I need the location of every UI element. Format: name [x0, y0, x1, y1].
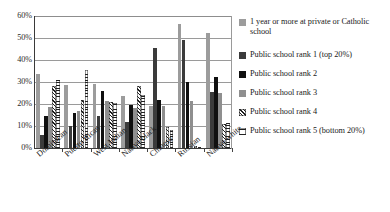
- legend-item[interactable]: Public school rank 4: [239, 107, 390, 117]
- bar: [93, 84, 97, 148]
- chart-legend: 1 year or more at private or Catholic sc…: [239, 14, 390, 149]
- legend-item[interactable]: Public school rank 2: [239, 69, 390, 79]
- y-tick-label: 20%: [2, 100, 32, 108]
- legend-swatch-icon: [239, 19, 246, 26]
- x-tick-mark: [232, 148, 233, 152]
- y-tick-label: 30%: [2, 78, 32, 86]
- x-tick-mark: [147, 148, 148, 152]
- bar-chart: 0%10%20%30%40%50%60% DominicanPuerto Ric…: [0, 0, 390, 212]
- bar: [214, 77, 218, 149]
- bar: [36, 74, 40, 148]
- x-axis-labels: DominicanPuerto RicanWest IndianNative b…: [34, 152, 234, 210]
- bar: [186, 82, 190, 148]
- legend-swatch-icon: [239, 71, 246, 78]
- bar: [64, 85, 68, 148]
- legend-swatch-icon: [239, 128, 246, 135]
- bar: [182, 40, 186, 148]
- legend-label: 1 year or more at private or Catholic sc…: [250, 17, 390, 38]
- x-tick-mark: [91, 148, 92, 152]
- y-axis-line: [34, 16, 35, 149]
- y-tick-label: 10%: [2, 122, 32, 130]
- y-tick-label: 50%: [2, 34, 32, 42]
- legend-label: Public school rank 1 (top 20%): [250, 50, 352, 60]
- legend-label: Public school rank 5 (bottom 20%): [250, 126, 365, 136]
- legend-swatch-icon: [239, 52, 246, 59]
- x-tick-mark: [175, 148, 176, 152]
- y-tick-label: 40%: [2, 56, 32, 64]
- legend-label: Public school rank 4: [250, 107, 317, 117]
- x-tick-mark: [119, 148, 120, 152]
- legend-swatch-icon: [239, 90, 246, 97]
- bar: [206, 33, 210, 149]
- legend-item[interactable]: Public school rank 3: [239, 88, 390, 98]
- bar-group: [34, 16, 62, 148]
- x-tick-mark: [62, 148, 63, 152]
- bar: [178, 24, 182, 148]
- bar-group: [62, 16, 90, 148]
- y-tick-label: 60%: [2, 12, 32, 20]
- y-tick-label: 0%: [2, 144, 32, 152]
- x-tick-mark: [204, 148, 205, 152]
- legend-swatch-icon: [239, 109, 246, 116]
- legend-item[interactable]: Public school rank 1 (top 20%): [239, 50, 390, 60]
- legend-label: Public school rank 2: [250, 69, 317, 79]
- legend-item[interactable]: 1 year or more at private or Catholic sc…: [239, 17, 390, 38]
- bar: [101, 91, 105, 148]
- bar-group: [175, 16, 203, 148]
- bar: [210, 92, 214, 148]
- plot-container: 0%10%20%30%40%50%60% DominicanPuerto Ric…: [0, 0, 240, 212]
- bar: [198, 147, 202, 148]
- bar: [121, 96, 125, 148]
- bar-group: [204, 16, 232, 148]
- legend-item[interactable]: Public school rank 5 (bottom 20%): [239, 126, 390, 136]
- legend-label: Public school rank 3: [250, 88, 317, 98]
- y-axis: 0%10%20%30%40%50%60%: [2, 0, 32, 160]
